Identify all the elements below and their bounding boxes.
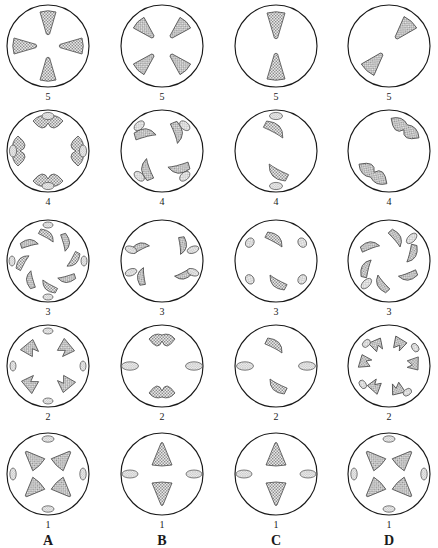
disc-c5	[230, 0, 322, 92]
disc-d5	[343, 0, 435, 92]
panel-d5: 5	[334, 0, 438, 105]
disc-drawing	[116, 105, 208, 197]
disc-drawing	[2, 320, 94, 412]
stage-number: 4	[221, 196, 331, 207]
panel-a5: 5	[0, 0, 103, 105]
disc-drawing	[343, 320, 435, 412]
disc-drawing	[230, 320, 322, 412]
disc-c2	[230, 320, 322, 412]
disc-a5	[2, 0, 94, 92]
disc-b4	[116, 105, 208, 197]
panel-c1: 1C	[221, 428, 331, 548]
panel-a4: 4	[0, 105, 103, 210]
stage-number: 3	[107, 306, 217, 317]
stage-number: 1	[107, 519, 217, 530]
panel-b2: 2	[107, 320, 217, 425]
stage-number: 5	[0, 91, 103, 102]
disc-drawing	[343, 0, 435, 92]
disc-a1	[2, 428, 94, 520]
column-letter-c: C	[221, 533, 331, 548]
disc-b2	[116, 320, 208, 412]
panel-c5: 5	[221, 0, 331, 105]
disc-drawing	[116, 215, 208, 307]
panel-b4: 4	[107, 105, 217, 210]
panel-b1: 1B	[107, 428, 217, 548]
disc-drawing	[2, 428, 94, 520]
column-letter-a: A	[0, 533, 103, 548]
cell-outline	[121, 5, 203, 87]
cell-outline	[348, 110, 430, 192]
disc-a3	[2, 215, 94, 307]
disc-drawing	[230, 428, 322, 520]
cell-outline	[348, 433, 430, 515]
disc-b5	[116, 0, 208, 92]
cell-outline	[7, 433, 89, 515]
stage-number: 1	[221, 519, 331, 530]
column-letter-b: B	[107, 533, 217, 548]
disc-drawing	[343, 215, 435, 307]
stage-number: 4	[107, 196, 217, 207]
stage-number: 5	[221, 91, 331, 102]
cell-outline	[235, 220, 317, 302]
panel-b3: 3	[107, 215, 217, 320]
stage-number: 1	[334, 519, 438, 530]
disc-drawing	[230, 215, 322, 307]
disc-drawing	[230, 105, 322, 197]
stage-number: 2	[107, 411, 217, 422]
disc-drawing	[343, 428, 435, 520]
stage-number: 3	[221, 306, 331, 317]
disc-drawing	[116, 428, 208, 520]
column-letter-d: D	[334, 533, 438, 548]
disc-b3	[116, 215, 208, 307]
disc-d3	[343, 215, 435, 307]
stage-number: 2	[0, 411, 103, 422]
panel-d2: 2	[334, 320, 438, 425]
panel-d3: 3	[334, 215, 438, 320]
panel-c3: 3	[221, 215, 331, 320]
disc-d1	[343, 428, 435, 520]
cell-outline	[121, 220, 203, 302]
stage-number: 4	[334, 196, 438, 207]
stage-number: 4	[0, 196, 103, 207]
disc-drawing	[116, 0, 208, 92]
stage-number: 5	[334, 91, 438, 102]
disc-drawing	[230, 0, 322, 92]
panel-c2: 2	[221, 320, 331, 425]
disc-d2	[343, 320, 435, 412]
disc-drawing	[2, 105, 94, 197]
stage-number: 3	[334, 306, 438, 317]
disc-c4	[230, 105, 322, 197]
stage-number: 1	[0, 519, 103, 530]
disc-a4	[2, 105, 94, 197]
stage-number: 5	[107, 91, 217, 102]
disc-a2	[2, 320, 94, 412]
panel-b5: 5	[107, 0, 217, 105]
disc-drawing	[2, 0, 94, 92]
cell-outline	[121, 110, 203, 192]
cell-outline	[7, 325, 89, 407]
disc-d4	[343, 105, 435, 197]
disc-drawing	[116, 320, 208, 412]
stage-number: 2	[334, 411, 438, 422]
disc-b1	[116, 428, 208, 520]
stage-number: 3	[0, 306, 103, 317]
panel-d4: 4	[334, 105, 438, 210]
panel-a3: 3	[0, 215, 103, 320]
disc-c1	[230, 428, 322, 520]
disc-drawing	[343, 105, 435, 197]
panel-a2: 2	[0, 320, 103, 425]
cell-outline	[348, 5, 430, 87]
panel-a1: 1A	[0, 428, 103, 548]
stage-number: 2	[221, 411, 331, 422]
disc-drawing	[2, 215, 94, 307]
cell-outline	[235, 110, 317, 192]
disc-c3	[230, 215, 322, 307]
panel-c4: 4	[221, 105, 331, 210]
panel-d1: 1D	[334, 428, 438, 548]
